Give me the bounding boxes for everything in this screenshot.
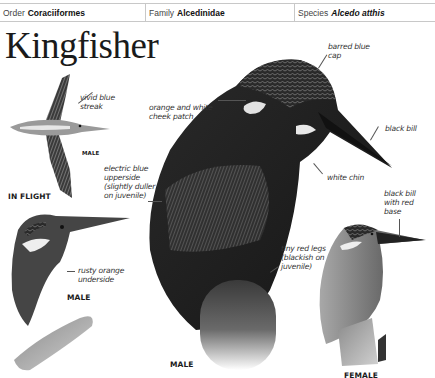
annotation-vivid-blue-streak: vivid blue streak xyxy=(80,93,115,111)
annotation-line: underside xyxy=(78,275,124,284)
annotation-cheek-patch: orange and white cheek patch xyxy=(149,103,212,121)
annotation-red-legs: tiny red legs (blackish on juvenile) xyxy=(281,244,326,271)
annotation-electric-blue: electric blue upperside (slightly duller… xyxy=(104,164,155,200)
annotation-white-chin: white chin xyxy=(327,173,364,182)
leader-line-red-base xyxy=(399,219,400,237)
annotation-line: base xyxy=(384,207,416,216)
annotation-line: cheek patch xyxy=(149,112,212,121)
caption-in-flight: IN FLIGHT xyxy=(8,192,51,201)
annotation-line: on juvenile) xyxy=(104,191,155,200)
female-kingfisher-illustration xyxy=(320,224,426,366)
caption-main-male: MALE xyxy=(170,360,194,369)
annotation-line: (blackish on xyxy=(281,253,326,262)
annotation-black-bill-red-base: black bill with red base xyxy=(384,189,416,216)
caption-flight-male: MALE xyxy=(82,150,99,156)
annotation-line: juvenile) xyxy=(281,262,326,271)
annotation-rusty-orange: rusty orange underside xyxy=(78,266,124,284)
annotation-line: black bill xyxy=(384,189,416,198)
annotation-barred-cap: barred blue cap xyxy=(328,42,370,60)
annotation-line: electric blue xyxy=(104,164,155,173)
annotation-line: rusty orange xyxy=(78,266,124,275)
annotation-line: tiny red legs xyxy=(281,244,326,253)
leader-line-cheek-patch xyxy=(218,100,246,101)
caption-female: FEMALE xyxy=(344,371,378,378)
annotation-line: white chin xyxy=(327,173,364,182)
annotation-line: with red xyxy=(384,198,416,207)
caption-perched-male: MALE xyxy=(67,293,91,302)
annotation-line: vivid blue xyxy=(80,93,115,102)
annotation-line: orange and white xyxy=(149,103,212,112)
annotation-line: upperside xyxy=(104,173,155,182)
annotation-line: cap xyxy=(328,51,370,60)
annotation-line: barred blue xyxy=(328,42,370,51)
annotation-black-bill: black bill xyxy=(385,124,417,133)
annotation-line: black bill xyxy=(385,124,417,133)
annotation-line: streak xyxy=(80,102,115,111)
annotation-line: (slightly duller xyxy=(104,182,155,191)
leader-line-rusty-orange xyxy=(67,271,75,272)
leader-line-electric-blue xyxy=(148,201,162,202)
